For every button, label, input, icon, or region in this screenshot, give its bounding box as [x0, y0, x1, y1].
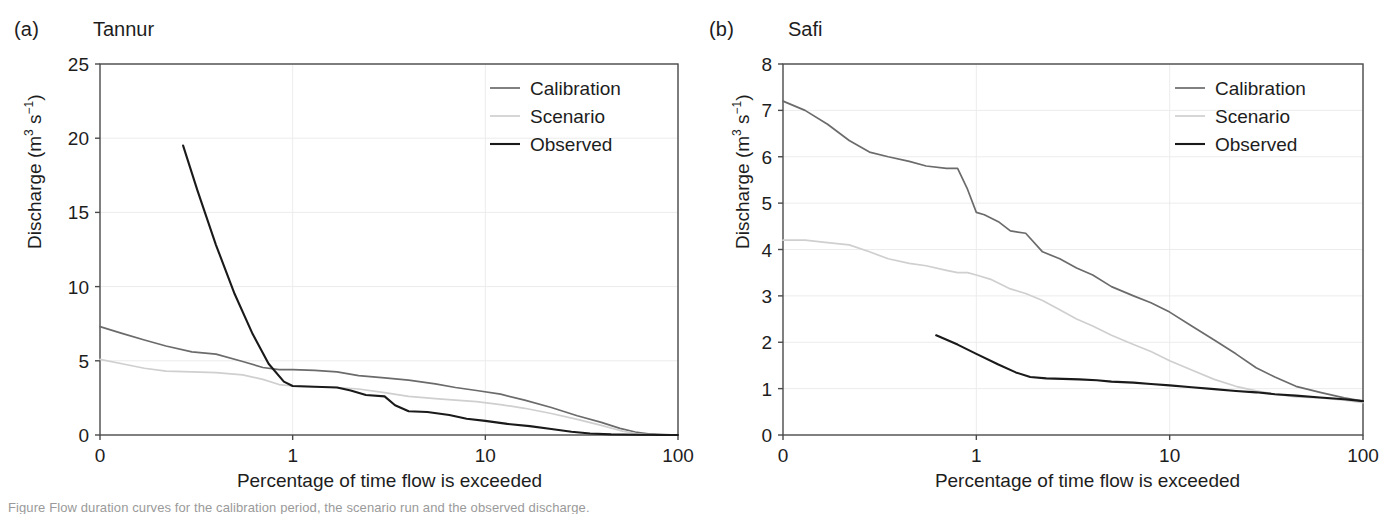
series-line-calibration	[100, 327, 678, 435]
y-tick-label: 3	[761, 286, 772, 307]
legend-label-observed: Observed	[530, 134, 612, 155]
x-tick-label: 0	[95, 445, 106, 466]
y-tick-label: 2	[761, 332, 772, 353]
x-tick-label: 10	[475, 445, 496, 466]
x-tick-label: 1	[287, 445, 298, 466]
x-tick-label: 0	[778, 445, 789, 466]
legend-label-calibration: Calibration	[530, 78, 621, 99]
series-line-observed	[936, 335, 1363, 401]
y-tick-label: 1	[761, 379, 772, 400]
y-tick-label: 7	[761, 100, 772, 121]
y-tick-label: 25	[68, 54, 89, 75]
plot-canvas-tannur: 05101520250110100CalibrationScenarioObse…	[0, 0, 695, 514]
plot-canvas-safi: 0123456780110100CalibrationScenarioObser…	[695, 0, 1390, 514]
y-tick-label: 8	[761, 54, 772, 75]
y-tick-label: 20	[68, 128, 89, 149]
y-tick-label: 0	[78, 425, 89, 446]
x-tick-label: 10	[1159, 445, 1180, 466]
legend-label-scenario: Scenario	[530, 106, 605, 127]
y-tick-label: 6	[761, 147, 772, 168]
y-tick-label: 5	[761, 193, 772, 214]
y-tick-label: 4	[761, 240, 772, 261]
figure-sheet: (a) Tannur Discharge (m3 s−1) Percentage…	[0, 0, 1390, 514]
legend-label-calibration: Calibration	[1215, 78, 1306, 99]
x-tick-label: 1	[971, 445, 982, 466]
series-line-observed	[183, 146, 678, 435]
y-tick-label: 0	[761, 425, 772, 446]
y-tick-label: 15	[68, 202, 89, 223]
y-tick-label: 5	[78, 351, 89, 372]
figure-caption-strip: Figure Flow duration curves for the cali…	[0, 500, 1390, 514]
chart-panel-tannur: (a) Tannur Discharge (m3 s−1) Percentage…	[0, 0, 695, 514]
figure-caption: Figure Flow duration curves for the cali…	[0, 500, 1390, 514]
legend-label-observed: Observed	[1215, 134, 1297, 155]
y-tick-label: 10	[68, 277, 89, 298]
x-tick-label: 100	[662, 445, 694, 466]
x-tick-label: 100	[1347, 445, 1379, 466]
legend-label-scenario: Scenario	[1215, 106, 1290, 127]
chart-panel-safi: (b) Safi Discharge (m3 s−1) Percentage o…	[695, 0, 1390, 514]
series-line-scenario	[100, 359, 678, 435]
